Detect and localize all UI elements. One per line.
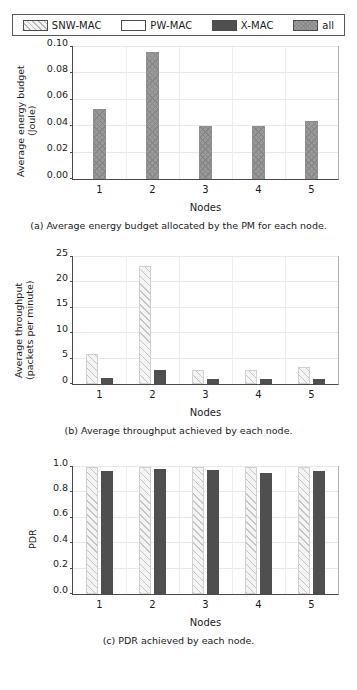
y-tick-label: 0.08	[47, 64, 68, 74]
x-tick-label: 4	[255, 599, 261, 610]
x-tick-label: 4	[255, 184, 261, 195]
legend-label-all: all	[322, 20, 334, 31]
chart-panel-c: PDR 0.00.20.40.60.81.012345 Nodes (c) PD…	[0, 462, 357, 674]
y-tick-mark	[70, 593, 73, 594]
legend-swatch-all	[293, 20, 318, 31]
bar-snw-mac-node-4	[245, 467, 257, 594]
gridline	[73, 99, 338, 100]
y-tick-mark	[70, 178, 73, 179]
legend-label-snw-mac: SNW-MAC	[52, 20, 102, 31]
legend-label-x-mac: X-MAC	[241, 20, 274, 31]
bar-x-mac-node-5	[313, 379, 325, 384]
chart-panel-b: Average throughput (packets per minute) …	[0, 252, 357, 452]
plot-area-a: Average energy budget (Joule) 0.000.020.…	[0, 42, 357, 202]
y-tick-mark	[70, 46, 73, 47]
gridline	[73, 281, 338, 282]
legend-swatch-x-mac	[212, 20, 237, 31]
y-tick-mark	[70, 358, 73, 359]
bar-x-mac-node-5	[313, 471, 325, 594]
x-tick-label: 1	[96, 389, 102, 400]
x-tick-label: 2	[149, 184, 155, 195]
y-tick-label: 25	[56, 248, 68, 258]
vertical-gridline	[232, 467, 233, 594]
bar-snw-mac-node-3	[192, 467, 204, 594]
legend-swatch-pw-mac	[121, 20, 146, 31]
x-tick-label: 1	[96, 184, 102, 195]
legend-swatch-snw-mac	[23, 20, 48, 31]
y-tick-mark	[70, 466, 73, 467]
y-tick-mark	[70, 152, 73, 153]
x-axis-label-c: Nodes	[72, 617, 339, 628]
y-tick-label: 0.02	[47, 143, 68, 153]
legend-entry-all: all	[293, 20, 334, 31]
x-axis-label-b: Nodes	[72, 407, 339, 418]
caption-a: (a) Average energy budget allocated by t…	[0, 220, 357, 231]
bar-snw-mac-node-3	[192, 370, 204, 384]
x-tick-label: 5	[308, 184, 314, 195]
caption-b: (b) Average throughput achieved by each …	[0, 425, 357, 436]
gridline	[73, 72, 338, 73]
x-tick-label: 3	[202, 389, 208, 400]
y-tick-label: 20	[56, 273, 68, 283]
bar-x-mac-node-2	[154, 370, 166, 384]
y-tick-label: 0.06	[47, 91, 68, 101]
y-tick-label: 0.6	[53, 509, 68, 519]
y-tick-label: 10	[56, 324, 68, 334]
figure-legend: SNW-MAC PW-MAC X-MAC all	[12, 14, 345, 36]
vertical-gridline	[126, 257, 127, 384]
bar-x-mac-node-2	[154, 469, 166, 594]
y-tick-label: 0	[62, 375, 68, 385]
x-tick-label: 5	[308, 389, 314, 400]
gridline	[73, 256, 338, 257]
bar-snw-mac-node-4	[245, 370, 257, 384]
bar-all-node-2	[146, 52, 160, 179]
x-tick-label: 2	[149, 389, 155, 400]
y-axis-label-a: Average energy budget (Joule)	[16, 56, 38, 186]
y-tick-label: 5	[62, 349, 68, 359]
y-tick-mark	[70, 281, 73, 282]
vertical-gridline	[285, 257, 286, 384]
gridline	[73, 46, 338, 47]
bar-x-mac-node-3	[207, 379, 219, 384]
bar-snw-mac-node-5	[298, 467, 310, 594]
vertical-gridline	[126, 47, 127, 179]
y-tick-label: 0.2	[53, 559, 68, 569]
gridline	[73, 358, 338, 359]
bar-all-node-5	[305, 121, 319, 179]
y-tick-mark	[70, 72, 73, 73]
y-tick-label: 0.04	[47, 117, 68, 127]
y-tick-mark	[70, 542, 73, 543]
axes-b: 051015202512345	[72, 256, 339, 385]
vertical-gridline	[232, 257, 233, 384]
x-tick-label: 3	[202, 599, 208, 610]
bar-snw-mac-node-2	[139, 266, 151, 384]
legend-entry-snw-mac: SNW-MAC	[23, 20, 102, 31]
vertical-gridline	[285, 467, 286, 594]
bar-snw-mac-node-5	[298, 367, 310, 384]
bar-all-node-3	[199, 126, 213, 179]
bar-x-mac-node-4	[260, 379, 272, 384]
legend-entry-pw-mac: PW-MAC	[121, 20, 192, 31]
vertical-gridline	[179, 467, 180, 594]
gridline	[73, 307, 338, 308]
y-tick-mark	[70, 491, 73, 492]
x-tick-label: 1	[96, 599, 102, 610]
y-tick-mark	[70, 568, 73, 569]
figure-container: SNW-MAC PW-MAC X-MAC all Average energy …	[0, 0, 357, 690]
x-axis-label-a: Nodes	[72, 202, 339, 213]
bar-x-mac-node-3	[207, 470, 219, 594]
x-tick-label: 4	[255, 389, 261, 400]
y-tick-mark	[70, 517, 73, 518]
x-tick-label: 5	[308, 599, 314, 610]
bar-x-mac-node-1	[101, 471, 113, 594]
bar-x-mac-node-4	[260, 473, 272, 594]
vertical-gridline	[285, 47, 286, 179]
y-tick-label: 0.4	[53, 534, 68, 544]
x-tick-label: 3	[202, 184, 208, 195]
y-tick-label: 15	[56, 299, 68, 309]
y-tick-label: 0.8	[53, 483, 68, 493]
x-tick-label: 2	[149, 599, 155, 610]
y-tick-label: 0.0	[53, 585, 68, 595]
y-tick-label: 0.10	[47, 38, 68, 48]
y-tick-label: 1.0	[53, 458, 68, 468]
